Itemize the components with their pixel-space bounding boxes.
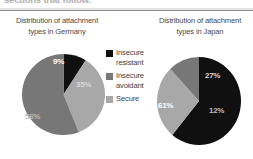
legend-label-insecure-avoidant: Insecure avoidant <box>116 71 144 90</box>
chart-legend: Insecure resistant Insecure avoidant Sec… <box>106 48 152 108</box>
running-text-cutoff: sections that follow. <box>4 0 144 4</box>
legend-swatch-icon-secure <box>106 96 113 103</box>
legend-swatch-icon-insecure-resistant <box>106 50 113 57</box>
legend-item-secure: Secure <box>106 94 152 104</box>
horizontal-rule <box>0 10 253 11</box>
pie-chart-germany <box>22 54 105 135</box>
chart-title-japan: Distribution of attachment types in Japa… <box>150 16 250 37</box>
pie-chart-japan <box>157 57 241 145</box>
legend-swatch-icon-insecure-avoidant <box>106 73 113 80</box>
legend-label-insecure-resistant: Insecure resistant <box>116 48 144 67</box>
chart-title-germany: Distribution of attachment types in Germ… <box>6 16 108 37</box>
chart-panel-germany: Distribution of attachment types in Germ… <box>6 16 108 37</box>
chart-panel-japan: Distribution of attachment types in Japa… <box>150 16 250 37</box>
legend-item-insecure-avoidant: Insecure avoidant <box>106 71 152 90</box>
legend-label-secure: Secure <box>116 94 139 104</box>
legend-item-insecure-resistant: Insecure resistant <box>106 48 152 67</box>
